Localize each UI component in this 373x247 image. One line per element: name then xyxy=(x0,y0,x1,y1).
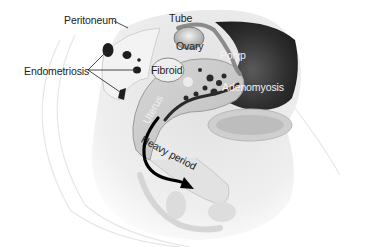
label-ovary: Ovary xyxy=(176,40,204,52)
pelvic-anatomy-diagram: Peritoneum Tube Ovary Polyp Endometriosi… xyxy=(0,0,373,247)
bladder-inner xyxy=(216,115,284,135)
label-adenomyosis: Adenomyosis xyxy=(222,81,284,93)
anatomy-illustration xyxy=(0,0,373,247)
label-endometriosis: Endometriosis xyxy=(24,65,89,77)
label-peritoneum: Peritoneum xyxy=(64,14,117,26)
pelvic-tissue xyxy=(166,191,186,219)
polyp-spot xyxy=(183,77,193,87)
pelvic-tissue xyxy=(208,202,236,222)
label-polyp: Polyp xyxy=(220,49,246,61)
label-tube: Tube xyxy=(169,12,192,24)
label-fibroid: Fibroid xyxy=(151,64,182,76)
